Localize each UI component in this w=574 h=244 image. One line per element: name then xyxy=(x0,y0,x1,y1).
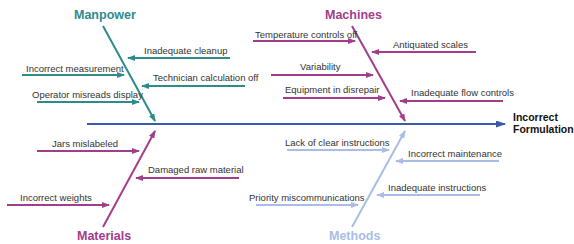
cause-damaged-raw-material: Damaged raw material xyxy=(148,164,244,175)
effect-label-line2: Formulation xyxy=(513,123,574,135)
cause-antiquated-scales: Antiquated scales xyxy=(393,39,468,50)
cause-incorrect-measurement: Incorrect measurement xyxy=(26,63,124,74)
cause-incorrect-maintenance: Incorrect maintenance xyxy=(408,148,502,159)
cause-inadequate-flow-controls: Inadequate flow controls xyxy=(411,87,514,98)
category-label-manpower: Manpower xyxy=(74,8,136,22)
effect-label-line1: Incorrect xyxy=(513,111,574,123)
cause-equipment-in-disrepair: Equipment in disrepair xyxy=(285,84,380,95)
effect-label: Incorrect Formulation xyxy=(513,111,574,135)
category-label-machines: Machines xyxy=(325,8,382,22)
category-label-materials: Materials xyxy=(77,229,131,243)
cause-inadequate-cleanup: Inadequate cleanup xyxy=(144,45,227,56)
cause-technician-calculation-off: Technician calculation off xyxy=(153,72,258,83)
cause-inadequate-instructions: Inadequate instructions xyxy=(388,182,486,193)
cause-priority-miscommunications: Priority miscommunications xyxy=(249,192,365,203)
cause-temperature-controls-off: Temperature controls off xyxy=(255,29,357,40)
cause-variability: Variability xyxy=(300,61,340,72)
cause-operator-misreads-display: Operator misreads display xyxy=(32,89,143,100)
cause-lack-of-clear-instructions: Lack of clear instructions xyxy=(285,137,390,148)
cause-incorrect-weights: Incorrect weights xyxy=(20,192,92,203)
cause-jars-mislabeled: Jars mislabeled xyxy=(52,138,118,149)
category-label-methods: Methods xyxy=(329,229,380,243)
